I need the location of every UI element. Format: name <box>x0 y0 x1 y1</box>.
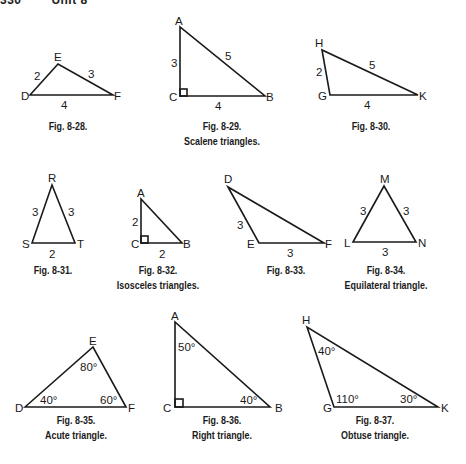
figure-8-32-triangle: A C B 2 2 <box>131 187 191 260</box>
vertex-label: B <box>275 402 283 414</box>
figure-caption: Fig. 8-32. <box>139 263 178 278</box>
figure-8-28-triangle: D E F 2 3 4 <box>21 51 121 111</box>
vertex-label: L <box>344 237 351 249</box>
vertex-label: B <box>183 238 191 250</box>
vertex-label: H <box>302 314 310 326</box>
vertex-label: B <box>266 91 274 103</box>
side-label: 4 <box>61 99 68 111</box>
figure-caption: Fig. 8-35. <box>57 413 96 428</box>
vertex-label: T <box>77 238 84 250</box>
side-label: 3 <box>403 205 409 217</box>
side-label: 2 <box>132 216 138 228</box>
side-label: 4 <box>215 100 222 112</box>
vertex-label: N <box>418 237 426 249</box>
vertex-label: C <box>169 91 177 103</box>
right-angle-marker <box>175 399 183 407</box>
figure-8-31-triangle: R S T 3 3 2 <box>22 172 84 260</box>
vertex-label: E <box>247 238 255 250</box>
angle-label: 40° <box>40 394 57 406</box>
vertex-label: A <box>175 15 183 27</box>
figure-caption: Fig. 8-37. <box>356 413 395 428</box>
side-label: 2 <box>49 248 55 260</box>
angle-label: 110° <box>336 393 359 405</box>
figure-caption: Fig. 8-36. <box>203 413 242 428</box>
vertex-label: K <box>441 402 449 414</box>
figure-subcaption: Right triangle. <box>192 428 252 443</box>
vertex-label: G <box>323 402 332 414</box>
angle-label: 40° <box>240 394 257 406</box>
side-label: 4 <box>364 99 371 111</box>
vertex-label: A <box>137 187 145 199</box>
vertex-label: S <box>22 238 30 250</box>
figure-subcaption: Scalene triangles. <box>184 134 260 149</box>
side-label: 3 <box>171 57 177 69</box>
side-label: 3 <box>88 68 94 80</box>
right-angle-marker <box>180 89 187 96</box>
triangle-figures: D E F 2 3 4 A C B 3 5 4 H G K 2 5 4 <box>0 0 466 464</box>
vertex-label: R <box>48 172 56 184</box>
vertex-label: K <box>419 90 427 102</box>
textbook-page: 330 Unit 8 D E F 2 3 4 A C B 3 5 4 H <box>0 0 466 464</box>
vertex-label: C <box>131 238 139 250</box>
side-label: 2 <box>159 248 165 260</box>
figure-8-37-triangle: H G K 40° 110° 30° <box>302 314 449 414</box>
side-label: 3 <box>287 247 293 259</box>
vertex-label: M <box>380 173 390 185</box>
vertex-label: E <box>89 335 97 347</box>
side-label: 3 <box>382 246 388 258</box>
figure-subcaption: Equilateral triangle. <box>345 278 428 293</box>
figure-8-29-triangle: A C B 3 5 4 <box>169 15 274 112</box>
side-label: 3 <box>32 206 38 218</box>
figure-caption: Fig. 8-29. <box>203 119 242 134</box>
figure-8-34-triangle: M L N 3 3 3 <box>344 173 426 258</box>
vertex-label: D <box>21 90 29 102</box>
vertex-label: F <box>128 402 135 414</box>
side-label: 5 <box>225 50 231 62</box>
angle-label: 80° <box>80 361 97 373</box>
vertex-label: D <box>15 402 23 414</box>
angle-label: 50° <box>178 341 195 353</box>
figure-8-36-triangle: A C B 50° 40° <box>163 310 283 414</box>
figure-subcaption: Acute triangle. <box>45 428 107 443</box>
figure-subcaption: Isosceles triangles. <box>117 278 199 293</box>
vertex-label: F <box>114 90 121 102</box>
figure-caption: Fig. 8-31. <box>34 263 73 278</box>
angle-label: 60° <box>100 394 117 406</box>
figure-caption: Fig. 8-34. <box>367 263 406 278</box>
vertex-label: A <box>171 310 179 322</box>
side-label: 5 <box>369 59 375 71</box>
vertex-label: E <box>54 51 62 63</box>
figure-8-33-triangle: D E F 3 3 <box>224 173 332 259</box>
figure-8-35-triangle: D E F 40° 80° 60° <box>15 335 135 414</box>
vertex-label: F <box>325 238 332 250</box>
side-label: 3 <box>360 205 366 217</box>
figure-caption: Fig. 8-33. <box>267 263 306 278</box>
angle-label: 30° <box>400 393 417 405</box>
figure-8-30-triangle: H G K 2 5 4 <box>315 37 427 111</box>
side-label: 3 <box>237 219 243 231</box>
vertex-label: H <box>315 37 323 49</box>
angle-label: 40° <box>318 345 335 357</box>
side-label: 2 <box>34 70 40 82</box>
figure-caption: Fig. 8-28. <box>49 119 88 134</box>
side-label: 2 <box>316 66 322 78</box>
vertex-label: C <box>163 402 171 414</box>
right-angle-marker <box>141 236 148 243</box>
figure-caption: Fig. 8-30. <box>352 119 391 134</box>
vertex-label: G <box>318 90 327 102</box>
figure-subcaption: Obtuse triangle. <box>341 428 409 443</box>
vertex-label: D <box>224 173 232 185</box>
side-label: 3 <box>68 206 74 218</box>
